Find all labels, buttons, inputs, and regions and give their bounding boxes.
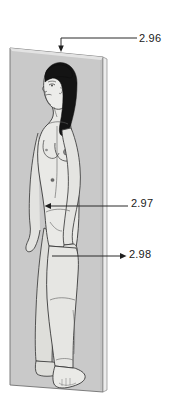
reference-label-297: 2.97	[131, 198, 153, 209]
reference-label-298: 2.98	[129, 249, 151, 260]
arrowhead-296	[58, 46, 64, 53]
navel	[51, 178, 54, 181]
leader-line-296	[61, 38, 137, 47]
reference-label-296: 2.96	[139, 33, 161, 44]
arrowhead-298	[120, 253, 127, 259]
panel-right-edge	[103, 57, 107, 392]
areola-far	[45, 149, 48, 151]
figure-container: 2.96 2.97 2.98	[0, 0, 173, 401]
pupil	[51, 85, 53, 87]
